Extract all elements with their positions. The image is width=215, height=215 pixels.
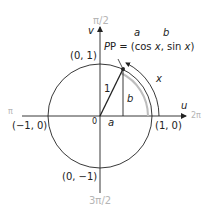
radius-label: 1 <box>104 84 110 94</box>
origin-label: 0 <box>92 118 97 126</box>
v-axis-label: v <box>88 26 94 36</box>
point-p-label: PP = (cos x, sin x) <box>104 42 194 52</box>
angle-label-right: 2π <box>191 112 201 120</box>
angle-label-top: π/2 <box>93 16 109 26</box>
point-p <box>121 67 125 71</box>
arc-x <box>126 63 159 116</box>
arc-label: x <box>156 74 162 84</box>
height-label: b <box>127 94 133 104</box>
base-label: a <box>108 118 114 128</box>
p-annot-b: b <box>163 28 169 38</box>
angle-label-left: π <box>8 108 13 116</box>
point-label-bottom: (0, −1) <box>62 172 97 182</box>
p-label-mid: , sin <box>161 41 185 52</box>
unit-circle-diagram: π/2 π 3π/2 2π v u 0 (0, 1) (−1, 0) (0, −… <box>0 0 215 215</box>
p-pointer <box>118 59 122 67</box>
point-label-left: (−1, 0) <box>12 121 47 131</box>
p-annot-a: a <box>134 28 140 38</box>
angle-label-bottom: 3π/2 <box>89 196 111 206</box>
point-label-right: (1, 0) <box>155 121 182 131</box>
p-label-suffix: ) <box>190 41 194 52</box>
point-label-top: (0, 1) <box>70 51 97 61</box>
arc-highlight <box>121 73 148 116</box>
p-label-prefix: P = (cos <box>110 41 155 52</box>
u-axis-label: u <box>181 101 187 111</box>
